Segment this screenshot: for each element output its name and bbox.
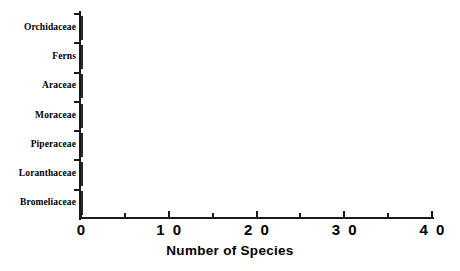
y-axis-label-loranthaceae: Loranthaceae	[4, 168, 76, 178]
y-axis-label-moraceae: Moraceae	[4, 110, 76, 120]
x-tick-major	[256, 211, 258, 218]
x-tick-minor	[212, 213, 214, 218]
y-tick	[74, 159, 79, 161]
y-tick	[74, 42, 79, 44]
bar-fill	[81, 104, 83, 128]
bar-bromeliaceae	[81, 191, 134, 215]
y-tick	[74, 189, 79, 191]
y-axis-label-bromeliaceae: Bromeliaceae	[4, 197, 76, 207]
y-tick	[74, 72, 79, 74]
x-tick-minor	[124, 213, 126, 218]
bar-fill	[81, 45, 83, 69]
bar-fill	[81, 133, 83, 157]
x-tick-label: 2 0	[237, 221, 277, 238]
x-tick-label: 0	[61, 221, 101, 238]
x-tick-minor	[387, 213, 389, 218]
bar-moraceae	[81, 104, 169, 128]
y-axis-label-ferns: Ferns	[4, 51, 76, 61]
y-tick	[74, 130, 79, 132]
bar-araceae	[81, 74, 335, 98]
x-axis-title: Number of Species	[0, 243, 460, 258]
x-tick-major	[343, 211, 345, 218]
bar-loranthaceae	[81, 162, 160, 186]
x-tick-label: 4 0	[412, 221, 452, 238]
x-tick-major	[431, 211, 433, 218]
y-tick	[74, 13, 79, 15]
y-axis-label-araceae: Araceae	[4, 80, 76, 90]
y-axis-label-piperaceae: Piperaceae	[4, 139, 76, 149]
x-tick-major	[168, 211, 170, 218]
bar-chart: Orchidaceae Ferns Araceae Moraceae Piper…	[0, 0, 460, 271]
x-tick-label: 3 0	[324, 221, 364, 238]
bar-fill	[81, 16, 83, 40]
x-tick-minor	[299, 213, 301, 218]
y-tick	[74, 101, 79, 103]
x-tick-major	[80, 211, 82, 218]
bar-fill	[81, 162, 83, 186]
y-axis-label-orchidaceae: Orchidaceae	[4, 22, 76, 32]
bar-ferns	[81, 45, 362, 69]
bar-fill	[81, 74, 83, 98]
bar-orchidaceae	[81, 16, 414, 40]
bar-piperaceae	[81, 133, 169, 157]
x-tick-label: 1 0	[149, 221, 189, 238]
